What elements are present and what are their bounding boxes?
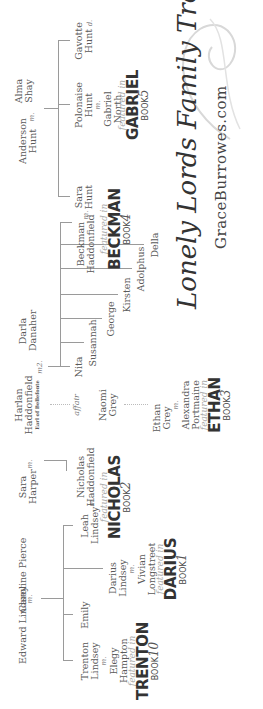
married-mark: m.: [82, 211, 90, 220]
tree-line: [41, 598, 63, 599]
person-name: Leah Lindsey: [80, 508, 100, 544]
person-george: George: [106, 301, 116, 336]
person-darius-lindsey: Darius Lindsey m. Vivian Longstreet: [108, 540, 157, 598]
person-name: Darius Lindsey: [108, 558, 128, 598]
tree-line: [58, 104, 70, 105]
person-name: Alma Shay: [14, 77, 34, 105]
book-title: DARIUS: [164, 538, 178, 600]
featured-beckman: featured in BECKMAN BOOK4: [100, 188, 132, 269]
page-title: Lonely Lords Family Tree: [172, 0, 202, 309]
tree-line: [58, 40, 70, 41]
person-adolphus: Adolphus: [136, 247, 146, 292]
spouse-name: Alexandra Portmaine: [181, 375, 201, 435]
person-darla-danaher: Darla Danaher: [18, 311, 38, 351]
person-name: Darla Danaher: [18, 311, 38, 351]
tree-line: [60, 366, 70, 367]
tree-line: [58, 41, 59, 197]
affair-mark: affair: [72, 394, 81, 416]
tree-line: [63, 525, 73, 526]
person-name: Caroline Pierce: [18, 538, 28, 613]
person-naomi-grey: Naomi Grey: [98, 388, 118, 422]
person-name: Anderson Hunt: [18, 117, 38, 165]
person-name: Gavotte Hunt: [74, 21, 94, 61]
person-name: Naomi Grey: [98, 388, 118, 422]
person-name: Nita: [74, 357, 84, 378]
spouse-name: Vivian Longstreet: [137, 540, 157, 598]
site-name: GraceBurrowes.com: [212, 85, 230, 249]
book-title: BECKMAN: [108, 188, 122, 269]
person-nita: Nita: [74, 357, 84, 378]
person-title: Earl of Bellefonte: [34, 375, 40, 435]
person-name: Kirsten: [122, 277, 132, 312]
family-tree-canvas: Edward Lindsey m. Caroline Pierce Trento…: [0, 0, 263, 709]
person-della: Della: [150, 233, 160, 258]
person-nicholas-haddonfield: Nicholas Haddonfield: [76, 447, 96, 507]
person-harlan-haddonfield: Harlan Haddonfield Earl of Bellefonte: [14, 375, 40, 435]
person-susannah: Susannah: [88, 319, 98, 366]
married-mark: m.: [28, 113, 36, 122]
person-name: Emily: [80, 601, 90, 628]
tree-line: [60, 245, 61, 367]
person-emily: Emily: [80, 601, 90, 628]
person-anderson-hunt: Anderson Hunt: [18, 117, 38, 165]
book-title: TRENTON: [136, 622, 150, 700]
tree-line: [60, 222, 72, 223]
featured-darius: featured in DARIUS BOOK1: [156, 538, 188, 600]
person-name: Nicholas Haddonfield: [76, 447, 96, 507]
person-name: Della: [150, 233, 160, 258]
tree-line: [58, 196, 70, 197]
person-polonaise-hunt: Polonaise Hunt m. Gabriel North: [74, 82, 123, 128]
person-name: Harlan Haddonfield: [14, 375, 34, 435]
person-sara-hunt: Sara Hunt: [74, 184, 94, 210]
book-title: GABRIEL: [126, 70, 140, 140]
person-name: Sara Hunt: [74, 184, 94, 210]
person-caroline-pierce: Caroline Pierce: [18, 538, 28, 613]
person-name: Polonaise Hunt: [74, 82, 94, 128]
tree-line: [44, 108, 58, 109]
affair-line: [50, 404, 70, 405]
affair-line: [124, 404, 148, 405]
spouse-name: Elegy Hampton: [109, 639, 129, 683]
person-name: Susannah: [88, 319, 98, 366]
featured-trenton: featured in TRENTON BOOK10: [128, 622, 160, 700]
person-name: Trenton Lindsey: [80, 639, 100, 683]
book-title: NICHOLAS: [108, 455, 122, 539]
person-ethan-grey: Ethan Grey m. Alexandra Portmaine: [152, 375, 201, 435]
tree-line: [63, 660, 73, 661]
tree-line: [63, 526, 64, 661]
person-name: Ethan Grey: [152, 401, 172, 435]
person-beckman-haddonfield: Beckman Haddonfield: [76, 212, 96, 276]
tree-line: [60, 342, 84, 343]
book-title: ETHAN: [208, 377, 222, 433]
person-gavotte-hunt: Gavotte Hunt: [74, 21, 94, 61]
tree-line: [60, 223, 61, 245]
married-mark: m.: [26, 460, 34, 469]
person-name: George: [106, 301, 116, 336]
featured-nicholas: featured in NICHOLAS BOOK2: [100, 455, 132, 539]
married-mark-2: m2.: [36, 360, 44, 373]
tree-line: [63, 614, 73, 615]
tree-line: [48, 366, 60, 367]
person-leah-lindsey: Leah Lindsey: [80, 508, 100, 544]
person-name: Sara Harper: [18, 470, 38, 504]
deceased-mark: d.: [86, 20, 94, 27]
person-kirsten: Kirsten: [122, 277, 132, 312]
person-name: Adolphus: [136, 247, 146, 292]
tree-line: [60, 294, 118, 295]
featured-gabriel: featured in GABRIEL BOOK5: [118, 70, 150, 140]
person-alma-shay: Alma Shay: [14, 77, 34, 105]
tree-line: [63, 568, 103, 569]
person-name: Beckman Haddonfield: [76, 212, 96, 276]
person-trenton-lindsey: Trenton Lindsey m. Elegy Hampton: [80, 639, 129, 683]
featured-ethan: featured in ETHAN BOOK3: [200, 377, 232, 433]
tree-line: [66, 460, 67, 471]
person-sara-harper: Sara Harper: [18, 470, 38, 504]
tree-line: [44, 460, 66, 461]
